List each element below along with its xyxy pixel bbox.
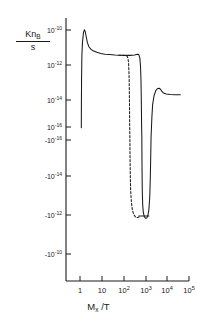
- data-curve-dashed: [119, 55, 141, 217]
- y-axis-tick-labels: 10-10 10-12 10-14 10-16 -10-16 -10-14 -1…: [45, 25, 63, 258]
- x-tick-label-5: 105: [183, 285, 194, 295]
- x-axis-ticks: [80, 276, 189, 281]
- plot-area: 10-10 10-12 10-14 10-16 -10-16 -10-14 -1…: [0, 0, 197, 328]
- y-tick-label-1: 10-12: [47, 60, 62, 69]
- y-tick-label-2: 10-14: [47, 95, 62, 104]
- x-tick-label-2: 102: [118, 285, 129, 295]
- x-axis-tick-labels: 1 10 102 103 104 105: [78, 285, 195, 295]
- figure-container: KnB s Mx /T 10-10 10-12 10-14 10-16 -10-…: [0, 0, 197, 328]
- y-tick-label-3: 10-16: [47, 122, 62, 131]
- y-tick-label-7: -10-10: [45, 249, 63, 258]
- y-tick-label-0: 10-10: [47, 25, 62, 34]
- x-tick-label-1: 10: [98, 286, 106, 295]
- y-tick-label-4: -10-16: [45, 135, 63, 144]
- y-axis-ticks: [66, 30, 71, 254]
- x-tick-label-0: 1: [78, 286, 82, 295]
- y-tick-label-5: -10-14: [45, 171, 63, 180]
- y-tick-label-6: -10-12: [45, 210, 63, 219]
- x-tick-label-3: 103: [140, 285, 151, 295]
- x-tick-label-4: 104: [161, 285, 172, 295]
